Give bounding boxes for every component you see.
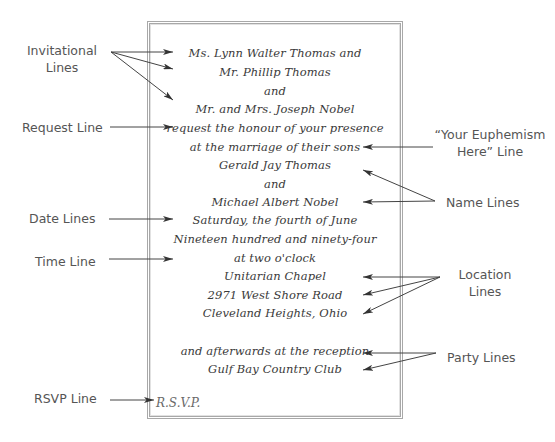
arrow-invitational-3	[111, 52, 173, 100]
annotation-arrows	[0, 0, 555, 442]
arrow-name-1	[363, 170, 435, 201]
arrow-name-2	[363, 201, 435, 202]
arrow-invitational-2	[111, 52, 173, 69]
arrow-party-2	[363, 353, 436, 370]
arrow-location-3	[363, 277, 440, 314]
arrow-location-2	[363, 277, 440, 295]
wedding-invitation-diagram: Ms. Lynn Walter Thomas and Mr. Phillip T…	[0, 0, 555, 442]
